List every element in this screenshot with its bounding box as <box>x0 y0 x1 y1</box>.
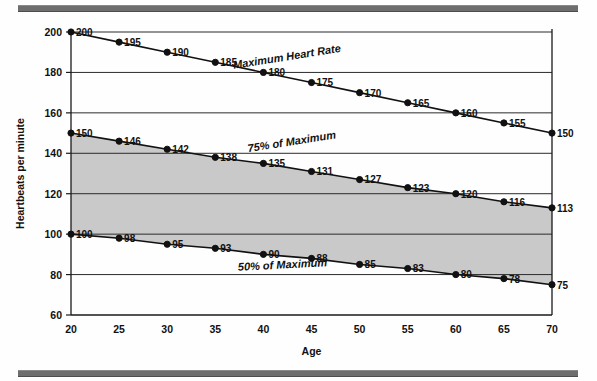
data-point <box>405 265 411 271</box>
data-point <box>164 146 170 152</box>
y-tick-label: 120 <box>44 188 62 200</box>
data-point <box>68 29 74 35</box>
point-label: 150 <box>76 128 93 139</box>
point-label: 135 <box>268 158 285 169</box>
point-label: 98 <box>124 233 136 244</box>
point-label: 116 <box>509 197 526 208</box>
data-point <box>501 120 507 126</box>
chart-canvas: 2001951901851801751701651601551501501461… <box>0 14 597 364</box>
point-label: 155 <box>509 118 526 129</box>
data-point <box>68 231 74 237</box>
data-point <box>116 39 122 45</box>
data-point <box>68 130 74 136</box>
x-tick-label: 20 <box>65 323 77 335</box>
data-point <box>164 241 170 247</box>
data-point <box>453 191 459 197</box>
point-label: 175 <box>317 77 334 88</box>
data-point <box>308 79 314 85</box>
x-tick-label: 70 <box>546 323 558 335</box>
point-label: 146 <box>124 136 141 147</box>
y-tick-label: 100 <box>44 228 62 240</box>
point-label: 100 <box>76 229 93 240</box>
point-label: 195 <box>124 37 141 48</box>
data-point <box>116 138 122 144</box>
point-label: 138 <box>220 152 237 163</box>
point-label: 78 <box>509 274 521 285</box>
y-tick-label: 200 <box>44 26 62 38</box>
point-label: 93 <box>220 243 232 254</box>
point-label: 80 <box>461 269 473 280</box>
point-label: 200 <box>76 27 93 38</box>
point-label: 120 <box>461 189 478 200</box>
x-tick-label: 35 <box>209 323 221 335</box>
x-tick-label: 60 <box>450 323 462 335</box>
y-axis-tick-labels: 6080100120140160180200 <box>44 26 62 321</box>
series-annotation-1: Maximum Heart Rate <box>232 42 341 71</box>
x-tick-label: 45 <box>306 323 318 335</box>
x-axis-title: Age <box>302 345 322 357</box>
series-annotation-3: 50% of Maximum <box>238 256 328 273</box>
point-label: 131 <box>317 166 334 177</box>
point-label: 83 <box>413 263 425 274</box>
point-label: 150 <box>557 128 574 139</box>
point-label: 123 <box>413 183 430 194</box>
data-point <box>260 251 266 257</box>
data-point <box>116 235 122 241</box>
data-point <box>405 100 411 106</box>
point-label: 85 <box>365 259 377 270</box>
data-point <box>405 185 411 191</box>
point-label: 190 <box>172 47 189 58</box>
data-point <box>549 282 555 288</box>
x-tick-label: 50 <box>354 323 366 335</box>
bottom-rule-divider <box>18 370 578 377</box>
data-point <box>260 69 266 75</box>
y-tick-label: 80 <box>50 269 62 281</box>
data-point <box>308 168 314 174</box>
data-point <box>501 199 507 205</box>
point-label: 113 <box>557 203 574 214</box>
y-axis-title: Heartbeats per minute <box>14 118 26 229</box>
point-label: 160 <box>461 108 478 119</box>
data-point <box>453 271 459 277</box>
point-label: 170 <box>365 88 382 99</box>
figure-page: 2001951901851801751701651601551501501461… <box>0 0 597 381</box>
data-point <box>357 90 363 96</box>
data-point <box>212 154 218 160</box>
data-point <box>212 59 218 65</box>
x-tick-label: 25 <box>113 323 125 335</box>
x-tick-label: 40 <box>258 323 270 335</box>
point-label: 180 <box>268 67 285 78</box>
data-point <box>549 205 555 211</box>
y-tick-label: 60 <box>50 309 62 321</box>
top-rule-divider <box>18 5 578 12</box>
x-tick-label: 65 <box>498 323 510 335</box>
heart-rate-chart: 2001951901851801751701651601551501501461… <box>0 14 597 364</box>
point-label: 75 <box>557 280 569 291</box>
data-point <box>501 276 507 282</box>
data-point <box>453 110 459 116</box>
data-point <box>260 160 266 166</box>
y-tick-label: 160 <box>44 107 62 119</box>
point-label: 127 <box>365 174 382 185</box>
y-tick-label: 140 <box>44 147 62 159</box>
data-point <box>357 261 363 267</box>
series-annotation-2: 75% of Maximum <box>247 128 337 154</box>
data-point <box>549 130 555 136</box>
data-point <box>164 49 170 55</box>
x-tick-label: 55 <box>402 323 414 335</box>
data-point <box>357 176 363 182</box>
data-point <box>212 245 218 251</box>
y-tick-label: 180 <box>44 66 62 78</box>
point-label: 165 <box>413 98 430 109</box>
x-tick-label: 30 <box>161 323 173 335</box>
point-label: 142 <box>172 144 189 155</box>
x-axis-tick-labels: 2025303540455055606570 <box>65 323 558 335</box>
point-label: 95 <box>172 239 184 250</box>
